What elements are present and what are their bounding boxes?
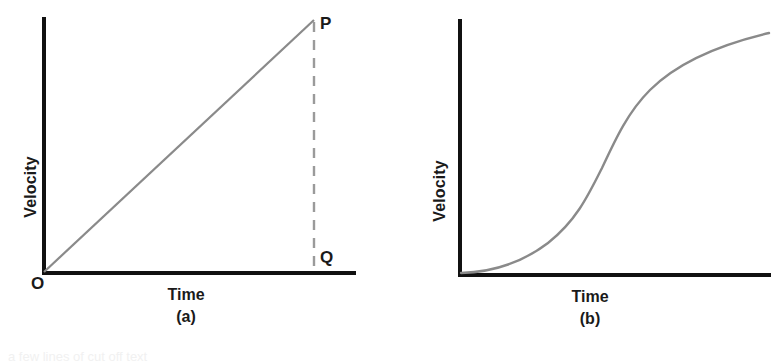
panel-b-caption: (b)	[550, 310, 630, 328]
panel-a-uniform-acceleration: Velocity O P Q Time (a)	[0, 0, 388, 363]
panel-a-y-axis-label: Velocity	[22, 147, 40, 227]
cut-off-bottom-text: a few lines of cut off text	[8, 349, 428, 361]
figure-root: Velocity O P Q Time (a) Velocity Time (b…	[0, 0, 776, 363]
panel-a-caption: (a)	[146, 308, 226, 326]
panel-a-point-label-q: Q	[320, 248, 333, 268]
panel-b-x-axis-label: Time	[550, 288, 630, 306]
panel-b-non-uniform-acceleration: Velocity Time (b)	[388, 0, 776, 363]
panel-a-point-label-p: P	[320, 14, 331, 34]
panel-b-y-axis-label: Velocity	[431, 151, 449, 231]
panel-b-velocity-curve	[461, 33, 769, 273]
panel-a-x-axis-label: Time	[146, 286, 226, 304]
panel-a-origin-label: O	[31, 274, 44, 294]
panel-a-velocity-line	[44, 20, 314, 272]
